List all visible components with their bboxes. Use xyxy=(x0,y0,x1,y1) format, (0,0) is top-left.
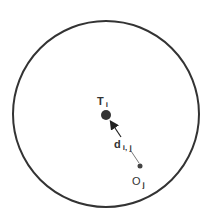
distance-label: di, j xyxy=(114,139,132,152)
origin-subscript: j xyxy=(143,180,145,189)
target-subscript: i xyxy=(106,100,108,109)
distance-subscript: i, j xyxy=(123,143,132,152)
target-point xyxy=(101,110,111,120)
distance-symbol: d xyxy=(114,138,121,150)
origin-label: Oj xyxy=(132,176,145,189)
origin-symbol: O xyxy=(132,175,141,187)
distance-arrow-upper xyxy=(111,122,121,137)
target-symbol: T xyxy=(97,95,104,107)
target-label: Ti xyxy=(97,96,108,109)
diagram-canvas xyxy=(0,0,213,221)
origin-point xyxy=(138,164,143,169)
distance-line-lower xyxy=(131,151,139,163)
